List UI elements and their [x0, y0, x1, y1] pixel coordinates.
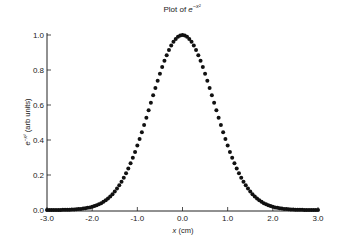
- data-point: [167, 48, 171, 52]
- data-point: [241, 180, 245, 184]
- data-point: [230, 156, 234, 160]
- data-point: [217, 116, 221, 120]
- data-point: [237, 171, 241, 175]
- data-series-gaussian: [45, 33, 320, 212]
- data-point: [160, 65, 164, 69]
- data-point: [239, 176, 243, 180]
- data-point: [149, 101, 153, 105]
- y-tick-label: 0.2: [33, 171, 45, 180]
- data-point: [212, 101, 216, 105]
- data-point: [126, 167, 130, 171]
- data-point: [151, 93, 155, 97]
- data-point: [221, 130, 225, 134]
- data-point: [158, 72, 162, 76]
- data-point: [129, 161, 133, 165]
- data-point: [165, 53, 169, 57]
- title-exponent: −x²: [193, 3, 201, 9]
- data-point: [124, 171, 128, 175]
- x-tick-label: 1.0: [222, 214, 234, 223]
- data-point: [232, 161, 236, 165]
- x-tick-label: 0.0: [177, 214, 189, 223]
- data-point: [223, 137, 227, 141]
- data-point: [135, 144, 139, 148]
- data-point: [192, 44, 196, 48]
- data-point: [316, 208, 320, 212]
- data-point: [122, 176, 126, 180]
- data-point: [120, 180, 124, 184]
- x-tick-label: 2.0: [267, 214, 279, 223]
- data-point: [117, 183, 121, 187]
- data-point: [142, 123, 146, 127]
- y-axis-ticks: 0.00.20.40.60.81.0: [33, 31, 51, 215]
- data-point: [201, 65, 205, 69]
- data-point: [199, 59, 203, 63]
- data-point: [190, 40, 194, 44]
- data-point: [153, 86, 157, 90]
- data-point: [244, 183, 248, 187]
- data-point: [156, 79, 160, 83]
- data-point: [131, 156, 135, 160]
- y-tick-label: 0.8: [33, 66, 45, 75]
- data-point: [138, 137, 142, 141]
- y-tick-label: 1.0: [33, 31, 45, 40]
- data-point: [203, 72, 207, 76]
- data-point: [144, 116, 148, 120]
- xlabel-unit: (cm): [176, 226, 194, 235]
- data-point: [140, 130, 144, 134]
- x-tick-label: 3.0: [312, 214, 324, 223]
- data-point: [147, 108, 151, 112]
- data-point: [208, 86, 212, 90]
- data-point: [196, 53, 200, 57]
- ylabel-unit: (arb units): [23, 98, 32, 134]
- gaussian-chart: Plot of e−x² 0.00.20.40.60.81.0 -3.0-2.0…: [0, 0, 338, 245]
- data-point: [133, 150, 137, 154]
- x-tick-label: -1.0: [130, 214, 144, 223]
- data-point: [219, 123, 223, 127]
- data-point: [226, 144, 230, 148]
- y-tick-label: 0.4: [33, 136, 45, 145]
- data-point: [205, 79, 209, 83]
- chart-title: Plot of e−x²: [163, 3, 200, 14]
- data-point: [214, 108, 218, 112]
- title-prefix: Plot of: [163, 5, 188, 14]
- x-tick-label: -2.0: [85, 214, 99, 223]
- x-tick-label: -3.0: [40, 214, 54, 223]
- data-point: [210, 93, 214, 97]
- x-axis-label: x (cm): [172, 226, 194, 235]
- data-point: [162, 59, 166, 63]
- data-point: [194, 48, 198, 52]
- data-point: [228, 150, 232, 154]
- y-tick-label: 0.6: [33, 101, 45, 110]
- data-point: [235, 167, 239, 171]
- data-point: [115, 187, 119, 191]
- data-point: [169, 44, 173, 48]
- y-axis-label: e−x² (arb units): [22, 98, 33, 146]
